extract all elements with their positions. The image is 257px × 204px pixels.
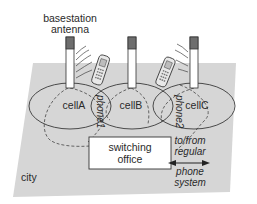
cellular-network-diagram: basestation antenna cellA cellB cellC ph… [0,0,257,204]
cellA-label: cellA [63,99,86,111]
cellB-label: cellB [120,99,143,111]
external-label-line3: phone [175,166,204,177]
external-label-line1: to/from [174,135,205,146]
basestation-antenna-B [128,37,136,88]
phone1-label: phone1 [95,94,106,128]
external-label-line4: system [174,177,206,188]
external-label-line2: regular [174,146,206,157]
city-label: city [21,171,38,183]
antenna-label-line2: antenna [51,23,89,35]
switching-office-label-line1: switching [108,141,151,153]
phone2-label: phone2 [174,94,185,129]
switching-office-label-line2: office [118,153,143,165]
cellC-label: cellC [185,99,209,111]
